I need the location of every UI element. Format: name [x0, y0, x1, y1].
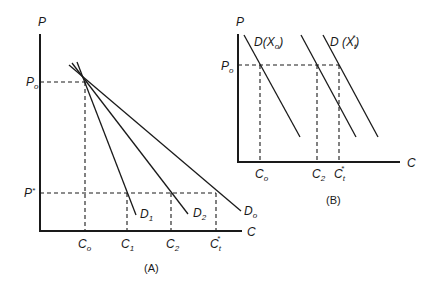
- panel-b-curve-middle: [301, 35, 356, 137]
- panel-b-y-axis-label: P: [236, 15, 244, 29]
- panel-a-curve-d2: [72, 63, 188, 214]
- panel-a-curve-d1: [77, 62, 136, 215]
- panel-b-tick-c0: Co: [255, 167, 269, 183]
- panel-b-x-axis-label: C: [407, 156, 416, 170]
- panel-a-label-p0: Po: [26, 75, 39, 91]
- panel-b-curve-dx0: [244, 35, 300, 137]
- panel-b-caption: (B): [326, 194, 341, 206]
- panel-a: P C Po P* D1 D2 Do Co C1 C2 Ct* (A): [24, 15, 258, 274]
- panel-a-tick-c0: Co: [78, 237, 92, 253]
- panel-a-label-d2: D2: [193, 206, 207, 222]
- panel-b-label-dxt: D (Xt*): [330, 33, 359, 51]
- panel-b-tick-c2: C2: [312, 167, 326, 183]
- panel-a-y-axis-label: P: [38, 15, 46, 29]
- panel-a-caption: (A): [144, 262, 159, 274]
- panel-a-x-axis-label: C: [247, 225, 256, 239]
- panel-b-tick-ct: Ct*: [334, 164, 346, 183]
- panel-a-label-d0: Do: [244, 204, 258, 220]
- panel-a-tick-ct: Ct*: [210, 234, 222, 253]
- panel-b-label-dx0: D(Xo): [254, 35, 283, 51]
- panel-a-tick-c1: C1: [121, 237, 134, 253]
- panel-b-label-p0: Po: [221, 59, 234, 75]
- panel-b: P C Po D(Xo) D (Xt*) Co C2 Ct* (B): [221, 15, 416, 206]
- panel-a-label-d1: D1: [140, 207, 153, 223]
- panel-b-curve-dxt: [323, 35, 378, 137]
- panel-a-tick-c2: C2: [166, 237, 180, 253]
- panel-a-label-pstar: P*: [24, 186, 36, 200]
- panel-a-curve-d0: [69, 65, 241, 211]
- demand-diagram: P C Po P* D1 D2 Do Co C1 C2 Ct* (A) P C: [0, 0, 438, 291]
